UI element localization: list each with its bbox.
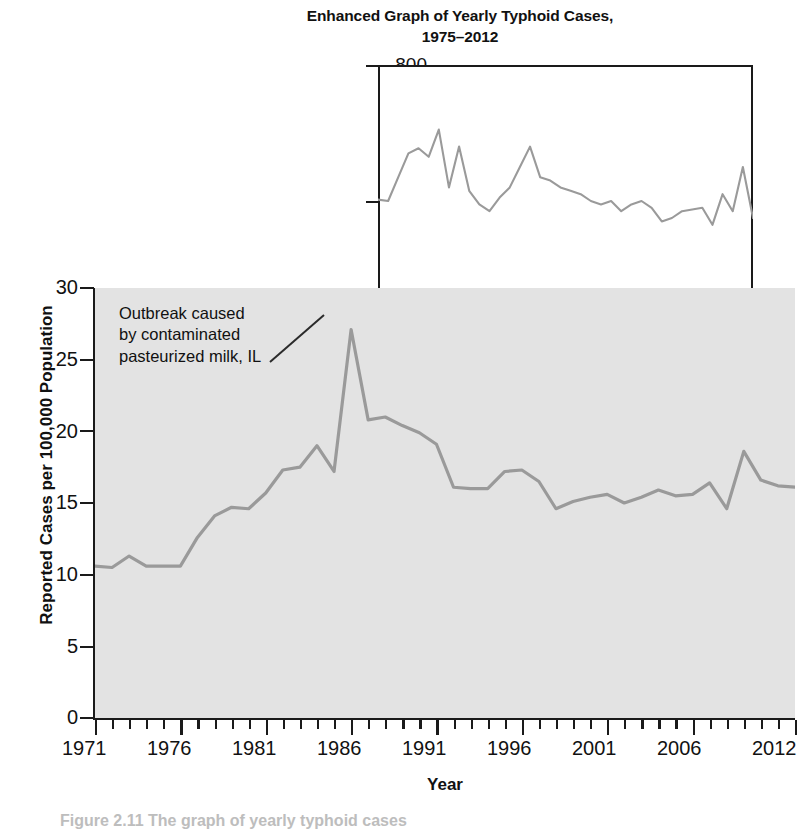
main-ytick-label-0: 0	[26, 706, 78, 729]
main-ytick-mark-10	[80, 574, 94, 576]
main-ytick-label-25: 25	[26, 348, 78, 371]
main-ytick-mark-20	[80, 430, 94, 432]
main-yaxis-title: Reported Cases per 100,000 Population	[37, 250, 57, 680]
main-xtick-label-1976: 1976	[147, 737, 192, 760]
main-ytick-mark-5	[80, 646, 94, 648]
main-xtick-label-1996: 1996	[487, 737, 532, 760]
main-ytick-mark-0	[80, 717, 94, 719]
main-xtick-label-1986: 1986	[317, 737, 362, 760]
outbreak-annotation-leader-line	[268, 312, 328, 364]
main-xtick-label-1981: 1981	[232, 737, 277, 760]
main-xaxis-ticks	[95, 720, 795, 735]
main-xtick-label-2001: 2001	[572, 737, 617, 760]
main-xaxis-title: Year	[95, 775, 795, 795]
inset-chart-title: Enhanced Graph of Yearly Typhoid Cases, …	[250, 6, 670, 47]
main-xtick-label-2012: 2012	[752, 737, 797, 760]
main-ytick-label-10: 10	[26, 563, 78, 586]
main-xtick-label-2006: 2006	[657, 737, 702, 760]
main-ytick-label-5: 5	[26, 635, 78, 658]
main-ytick-label-20: 20	[26, 420, 78, 443]
main-xtick-label-1991: 1991	[402, 737, 447, 760]
inset-chart-title-line2: 1975–2012	[250, 27, 670, 48]
main-ytick-mark-30	[80, 287, 94, 289]
figure-caption: Figure 2.11 The graph of yearly typhoid …	[60, 812, 760, 830]
main-xtick-label-1971: 1971	[62, 737, 107, 760]
main-ytick-mark-25	[80, 359, 94, 361]
main-ytick-label-15: 15	[26, 491, 78, 514]
main-ytick-mark-15	[80, 502, 94, 504]
inset-chart-title-line1: Enhanced Graph of Yearly Typhoid Cases,	[250, 6, 670, 27]
main-ytick-label-30: 30	[26, 276, 78, 299]
